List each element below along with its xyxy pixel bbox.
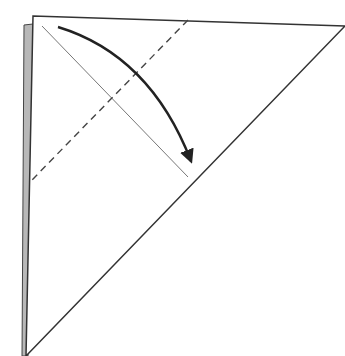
diagram-canvas: [0, 0, 345, 356]
origami-diagram: [0, 0, 345, 356]
paper-triangle: [26, 16, 345, 356]
